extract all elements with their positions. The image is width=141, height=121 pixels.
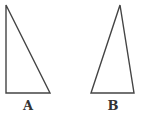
triangle-a [6, 5, 50, 93]
triangle-a-label: A [18, 99, 38, 112]
triangle-b-label: B [103, 99, 123, 112]
triangle-b [91, 5, 134, 93]
